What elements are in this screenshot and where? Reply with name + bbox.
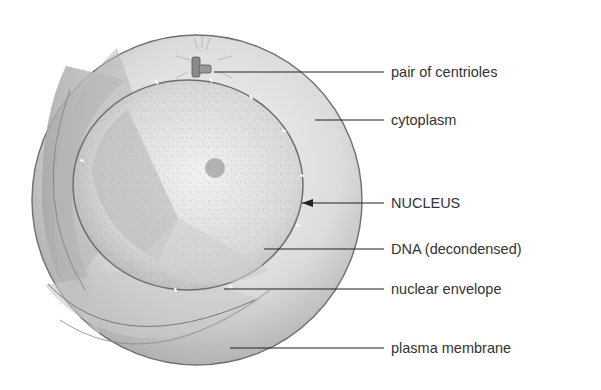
label-nuclear-envelope: nuclear envelope bbox=[391, 280, 501, 298]
label-nucleus: NUCLEUS bbox=[391, 194, 460, 212]
label-cytoplasm: cytoplasm bbox=[391, 111, 456, 129]
nucleus-body bbox=[73, 78, 304, 292]
label-plasma-membrane: plasma membrane bbox=[391, 339, 511, 357]
label-pair-of-centrioles: pair of centrioles bbox=[391, 63, 497, 81]
cell-diagram bbox=[0, 0, 601, 390]
label-dna: DNA (decondensed) bbox=[391, 240, 522, 258]
